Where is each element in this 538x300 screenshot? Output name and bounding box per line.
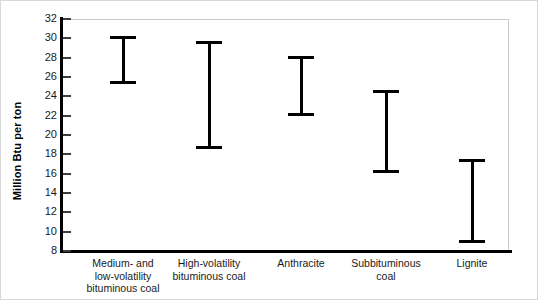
y-tick-label-text: 14 <box>37 187 57 198</box>
error-bar <box>373 90 399 173</box>
y-tick-mark <box>63 153 71 155</box>
y-tick-mark <box>63 95 71 97</box>
y-tick-label: 30 <box>35 32 57 43</box>
y-tick-mark <box>63 192 71 194</box>
y-tick-label: 14 <box>35 187 57 198</box>
y-tick-label: 10 <box>35 226 57 237</box>
y-axis-title: Million Btu per ton <box>9 35 25 267</box>
y-tick-mark <box>63 76 71 78</box>
chart-figure: Million Btu per ton 32302826242220181614… <box>0 0 538 300</box>
error-bar-stem <box>300 56 303 116</box>
y-tick-mark <box>63 173 71 175</box>
y-tick-label-text: 18 <box>37 148 57 159</box>
y-tick-mark <box>63 211 71 213</box>
error-bar-cap-low <box>196 146 222 149</box>
error-bar <box>196 41 222 149</box>
y-tick-mark <box>63 18 71 20</box>
y-tick-label: 32 <box>35 13 57 24</box>
y-tick-label-text: 20 <box>37 129 57 140</box>
y-tick-mark <box>63 250 71 252</box>
y-tick-mark <box>63 134 71 136</box>
y-tick-label-text: 28 <box>37 52 57 63</box>
error-bar-cap-low <box>459 240 485 243</box>
y-tick-label: 18 <box>35 148 57 159</box>
y-tick-mark <box>63 37 71 39</box>
y-tick-label: 8 <box>35 245 57 256</box>
error-bar-stem <box>385 90 388 173</box>
y-tick-label-text: 16 <box>37 168 57 179</box>
error-bar-stem <box>122 36 125 84</box>
y-tick-label-text: 26 <box>37 71 57 82</box>
y-tick-label: 16 <box>35 168 57 179</box>
error-bar-cap-high <box>288 56 314 59</box>
y-tick-label: 12 <box>35 206 57 217</box>
y-tick-label-text: 12 <box>37 206 57 217</box>
error-bar-cap-high <box>110 36 136 39</box>
y-tick-label-text: 32 <box>37 13 57 24</box>
error-bar-cap-high <box>373 90 399 93</box>
y-tick-label-text: 10 <box>37 226 57 237</box>
error-bar-stem <box>208 41 211 149</box>
y-tick-label: 26 <box>35 71 57 82</box>
error-bar-cap-high <box>459 159 485 162</box>
error-bar-cap-low <box>110 81 136 84</box>
error-bar <box>288 56 314 116</box>
y-tick-mark <box>63 231 71 233</box>
y-tick-label: 20 <box>35 129 57 140</box>
y-tick-label: 22 <box>35 110 57 121</box>
y-tick-label-text: 30 <box>37 32 57 43</box>
y-tick-mark <box>63 115 71 117</box>
error-bar-cap-high <box>196 41 222 44</box>
y-tick-label: 28 <box>35 52 57 63</box>
y-tick-label: 24 <box>35 90 57 101</box>
x-axis-line <box>60 250 512 253</box>
y-tick-label-text: 8 <box>37 245 57 256</box>
y-tick-mark <box>63 57 71 59</box>
y-tick-label-text: 22 <box>37 110 57 121</box>
error-bar-stem <box>471 159 474 243</box>
error-bar <box>110 36 136 84</box>
error-bar-cap-low <box>288 113 314 116</box>
x-axis-category-label: Lignite <box>417 257 527 270</box>
y-tick-label-text: 24 <box>37 90 57 101</box>
error-bar-cap-low <box>373 170 399 173</box>
error-bar <box>459 159 485 243</box>
